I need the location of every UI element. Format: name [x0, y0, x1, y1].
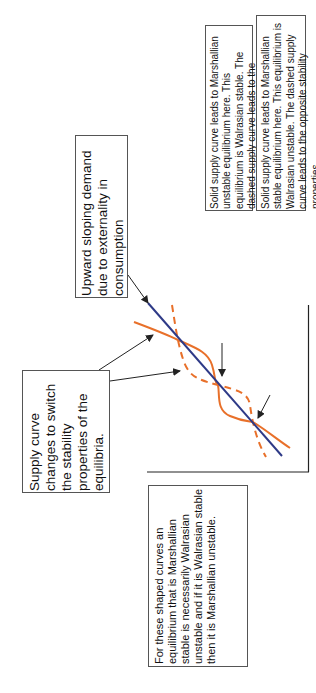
supply-switch-arrow-1: [99, 335, 153, 370]
demand-line: [148, 303, 282, 456]
solid-supply-curve: [134, 322, 290, 448]
demand-note-arrow: [128, 275, 148, 303]
supply-switch-arrow-2: [110, 371, 180, 381]
dashed-supply-curve: [172, 305, 266, 457]
supply-switch-note-text: Supply curve changes to switch the stabi…: [27, 373, 107, 491]
summary-note-text: For these shaped curves an equilibrium t…: [153, 488, 218, 664]
summary-note-box: For these shaped curves an equilibrium t…: [148, 485, 248, 667]
lower-equilibrium-note-box: Solid supply curve leads to Marshallian …: [256, 15, 306, 211]
middle-equilibrium-note-box: Solid supply curve leads to Marshallian …: [205, 25, 253, 211]
demand-note-box: Upward sloping demand due to externality…: [75, 135, 128, 298]
demand-note-text: Upward sloping demand due to externality…: [79, 138, 127, 296]
lower-equilibrium-note-text: Solid supply curve leads to Marshallian …: [260, 17, 316, 209]
lower-eq-arrow: [258, 395, 270, 418]
supply-switch-note-box: Supply curve changes to switch the stabi…: [22, 370, 110, 493]
